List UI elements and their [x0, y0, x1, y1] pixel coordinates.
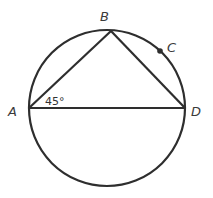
label-a: A — [7, 104, 17, 119]
label-c: C — [167, 40, 177, 55]
label-b: B — [100, 9, 109, 24]
segment-ab — [29, 31, 111, 108]
label-d: D — [191, 104, 201, 119]
geometry-diagram: B C A D 45° — [0, 0, 213, 198]
angle-label-a: 45° — [45, 95, 65, 108]
point-c-dot — [157, 48, 163, 54]
